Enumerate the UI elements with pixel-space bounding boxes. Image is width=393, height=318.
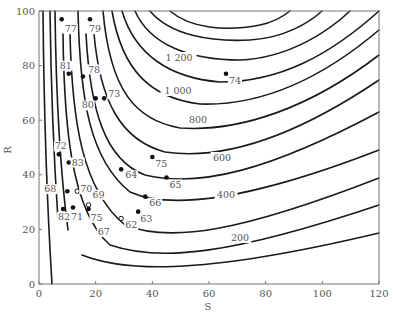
y-tick-label: 0 <box>29 279 35 290</box>
contour-line <box>94 34 379 154</box>
x-tick-label: 100 <box>313 288 332 299</box>
x-tick-label: 0 <box>36 288 42 299</box>
x-tick-label: 20 <box>89 288 102 299</box>
data-point-marker-open <box>75 189 79 193</box>
data-point-label: 65 <box>170 179 182 190</box>
data-point-label: 79 <box>89 23 101 34</box>
data-point-marker-open <box>86 203 90 207</box>
plot-border <box>39 11 379 284</box>
axis-ticks: 020406080100120020406080100 <box>16 6 389 300</box>
contour-level-label: 200 <box>231 232 249 243</box>
data-point-marker <box>59 17 64 22</box>
data-point-label: 81 <box>60 60 72 71</box>
y-tick-label: 80 <box>22 60 35 71</box>
data-point-label: 82 <box>58 211 70 222</box>
y-axis-title: R <box>2 146 13 154</box>
data-point-marker <box>81 74 86 79</box>
x-axis-title: S <box>205 301 212 312</box>
data-point-label: 78 <box>88 64 100 75</box>
data-point-label: 71 <box>71 211 83 222</box>
y-tick-label: 100 <box>16 6 35 17</box>
contour-level-label: 1 200 <box>165 52 192 63</box>
data-point-label: 66 <box>149 197 161 208</box>
data-point-label: 80 <box>82 99 94 110</box>
data-point-marker <box>66 160 71 165</box>
data-point-label: 70 <box>80 183 92 194</box>
data-point-marker <box>150 155 155 160</box>
data-point-marker-open <box>119 216 123 220</box>
data-point-marker <box>88 17 93 22</box>
contour-chart: 2004006008001 0001 200 77798178807374728… <box>0 0 393 318</box>
data-point-marker <box>66 71 71 76</box>
data-point-label: 75 <box>155 158 167 169</box>
data-point-label: 68 <box>44 183 56 194</box>
data-point-marker <box>71 205 76 210</box>
contour-level-label: 800 <box>189 114 207 125</box>
data-point-marker <box>164 175 169 180</box>
contour-line <box>170 11 290 28</box>
data-point-marker <box>224 71 229 76</box>
contour-level-label: 400 <box>217 189 235 200</box>
x-tick-label: 60 <box>203 288 216 299</box>
data-point-label: 75 <box>91 212 103 223</box>
x-tick-label: 40 <box>146 288 159 299</box>
data-point-marker <box>102 96 107 101</box>
data-point-label: 73 <box>108 88 120 99</box>
data-point-label: 77 <box>65 23 77 34</box>
data-point-label: 62 <box>125 219 137 230</box>
data-point-marker <box>57 152 62 157</box>
data-point-label: 83 <box>72 157 84 168</box>
y-tick-label: 40 <box>22 169 35 180</box>
y-tick-label: 60 <box>22 115 35 126</box>
data-point-marker <box>93 96 98 101</box>
x-tick-label: 120 <box>369 288 388 299</box>
contour-line <box>103 11 379 128</box>
data-point-label: 72 <box>55 140 67 151</box>
contour-level-label: 600 <box>213 152 231 163</box>
contour-level-label: 1 000 <box>164 85 191 96</box>
y-tick-label: 20 <box>22 224 35 235</box>
data-point-label: 69 <box>93 189 105 200</box>
x-tick-label: 80 <box>259 288 272 299</box>
data-point-marker <box>143 194 148 199</box>
data-point-label: 64 <box>125 169 137 180</box>
data-point-marker <box>86 207 91 212</box>
data-point-marker <box>119 167 124 172</box>
data-point-marker <box>65 189 70 194</box>
data-point-label: 63 <box>140 213 152 224</box>
data-point-label: 74 <box>229 75 241 86</box>
data-point-label: 67 <box>98 226 110 237</box>
contour-lines <box>43 11 379 284</box>
plot-frame <box>39 11 379 284</box>
